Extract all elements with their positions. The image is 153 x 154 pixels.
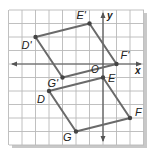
vertex-point [128, 116, 132, 120]
vertex-point [47, 89, 51, 93]
vertex-point [87, 21, 91, 25]
vertex-label: D [37, 93, 45, 105]
vertex-label: G' [48, 77, 60, 89]
vertex-point [74, 129, 78, 133]
vertex-point [60, 75, 64, 79]
vertex-label: E' [77, 9, 87, 21]
vertex-label: D' [22, 39, 33, 51]
vertex-point [114, 62, 118, 66]
vertex-point [101, 75, 105, 79]
figure-shadow [9, 10, 147, 148]
vertex-label: F' [121, 49, 131, 61]
y-axis-label: y [106, 10, 113, 21]
origin-label: O [91, 64, 99, 75]
x-axis-label: x [134, 65, 141, 76]
vertex-label: G [63, 131, 72, 143]
vertex-label: E [108, 72, 116, 84]
vertex-point [33, 35, 37, 39]
coordinate-plane-figure: xyOD'E'F'G'DEFG [0, 0, 153, 154]
